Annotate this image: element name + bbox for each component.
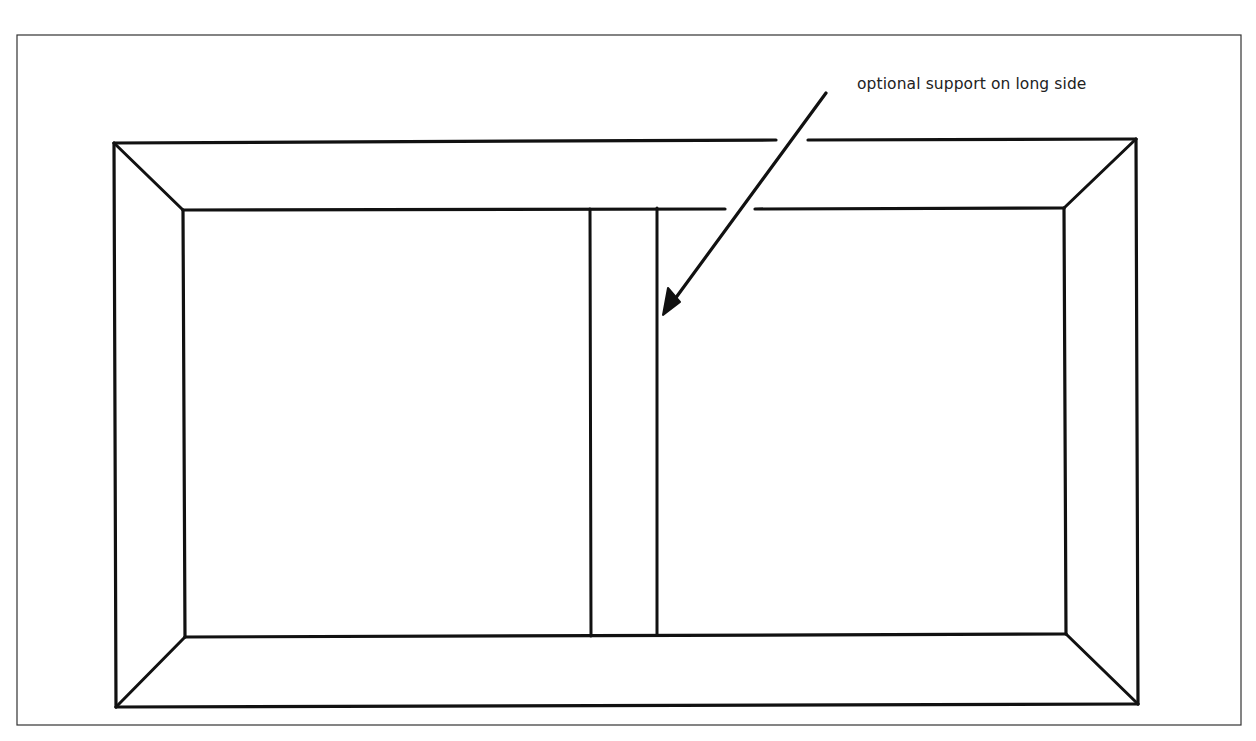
arrowhead-icon bbox=[663, 288, 680, 315]
box-support-diagram bbox=[0, 0, 1256, 741]
annotation-arrow bbox=[663, 93, 826, 315]
annotation-label: optional support on long side bbox=[857, 75, 1086, 93]
inner-box bbox=[183, 208, 1066, 637]
outer-box bbox=[114, 139, 1138, 707]
corner-miters bbox=[114, 139, 1138, 707]
optional-support bbox=[590, 208, 657, 636]
